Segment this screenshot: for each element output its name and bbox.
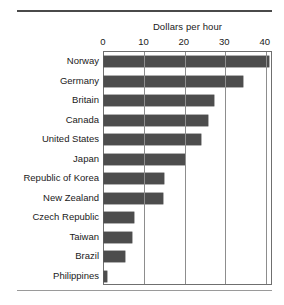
category-label-japan: Japan	[0, 149, 99, 169]
category-label-britain: Britain	[0, 90, 99, 110]
gridline-10	[144, 52, 145, 284]
bar-taiwan	[104, 232, 132, 243]
bar-row	[104, 169, 271, 189]
x-tick-label-10: 10	[138, 36, 149, 47]
bar-republic-of-korea	[104, 173, 164, 184]
bars-layer	[104, 52, 271, 284]
category-label-norway: Norway	[0, 51, 99, 71]
category-label-republic-of-korea: Republic of Korea	[0, 168, 99, 188]
x-tick-label-30: 30	[219, 36, 230, 47]
bar-czech-republic	[104, 212, 134, 223]
chart-title: Dollars per hour	[103, 21, 272, 32]
category-label-philippines: Philippines	[0, 266, 99, 286]
bar-row	[104, 111, 271, 131]
category-label-canada: Canada	[0, 110, 99, 130]
gridline-40	[266, 52, 267, 284]
bar-row	[104, 91, 271, 111]
x-tick-label-20: 20	[179, 36, 190, 47]
bar-row	[104, 189, 271, 209]
category-label-taiwan: Taiwan	[0, 227, 99, 247]
gridline-30	[225, 52, 226, 284]
category-label-czech-republic: Czech Republic	[0, 207, 99, 227]
bar-philippines	[104, 271, 107, 282]
bar-united-states	[104, 134, 201, 145]
category-label-germany: Germany	[0, 71, 99, 91]
bar-norway	[104, 56, 269, 67]
bar-brazil	[104, 251, 125, 262]
plot-area	[103, 51, 272, 285]
x-tick-label-0: 0	[100, 36, 105, 47]
category-label-united-states: United States	[0, 129, 99, 149]
x-axis-tick-labels: 010203040	[0, 36, 284, 49]
bar-row	[104, 208, 271, 228]
bar-row	[104, 228, 271, 248]
bar-germany	[104, 76, 243, 87]
bar-row	[104, 247, 271, 267]
category-label-brazil: Brazil	[0, 246, 99, 266]
bar-row	[104, 150, 271, 170]
bar-row	[104, 267, 271, 287]
bar-chart-figure: Dollars per hour 010203040 NorwayGermany…	[0, 0, 284, 305]
bottom-rule	[17, 290, 272, 291]
bar-row	[104, 52, 271, 72]
category-labels: NorwayGermanyBritainCanadaUnited StatesJ…	[0, 51, 99, 285]
top-rule	[17, 10, 272, 12]
bar-canada	[104, 115, 208, 126]
bar-row	[104, 72, 271, 92]
gridline-20	[185, 52, 186, 284]
category-label-new-zealand: New Zealand	[0, 188, 99, 208]
bar-new-zealand	[104, 193, 163, 204]
bar-britain	[104, 95, 214, 106]
x-tick-label-40: 40	[259, 36, 270, 47]
bar-row	[104, 130, 271, 150]
